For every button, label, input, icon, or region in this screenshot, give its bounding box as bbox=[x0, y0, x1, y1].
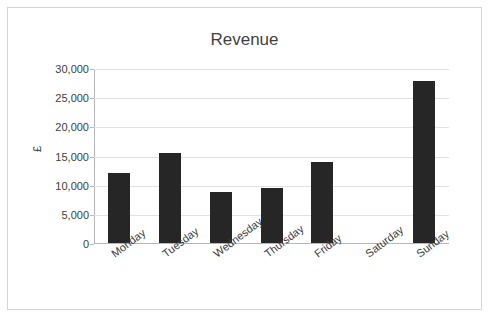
bar bbox=[108, 173, 130, 243]
y-tick-mark bbox=[90, 215, 94, 216]
y-tick-label: 25,000 bbox=[55, 92, 89, 104]
gridline bbox=[94, 186, 449, 187]
y-tick-mark bbox=[90, 157, 94, 158]
chart-title: Revenue bbox=[8, 30, 481, 50]
gridline bbox=[94, 69, 449, 70]
y-axis-tick-labels: 05,00010,00015,00020,00025,00030,000 bbox=[44, 69, 89, 244]
y-tick-label: 20,000 bbox=[55, 121, 89, 133]
bar bbox=[261, 188, 283, 243]
y-tick-label: 30,000 bbox=[55, 63, 89, 75]
gridline bbox=[94, 157, 449, 158]
y-tick-mark bbox=[90, 98, 94, 99]
bar bbox=[413, 81, 435, 243]
gridline bbox=[94, 98, 449, 99]
y-tick-label: 15,000 bbox=[55, 151, 89, 163]
y-tick-mark bbox=[90, 244, 94, 245]
y-tick-label: 10,000 bbox=[55, 180, 89, 192]
y-tick-mark bbox=[90, 69, 94, 70]
bar bbox=[311, 162, 333, 243]
y-axis-title: £ bbox=[31, 146, 43, 152]
y-tick-mark bbox=[90, 127, 94, 128]
y-tick-mark bbox=[90, 186, 94, 187]
chart-frame: Revenue £ 05,00010,00015,00020,00025,000… bbox=[7, 7, 482, 310]
bar bbox=[159, 153, 181, 243]
plot-area bbox=[94, 69, 449, 244]
y-tick-label: 0 bbox=[83, 238, 89, 250]
y-tick-label: 5,000 bbox=[61, 209, 89, 221]
x-axis-tick-labels: MondayTuesdayWednesdayThursdayFridaySatu… bbox=[94, 246, 449, 316]
gridline bbox=[94, 127, 449, 128]
